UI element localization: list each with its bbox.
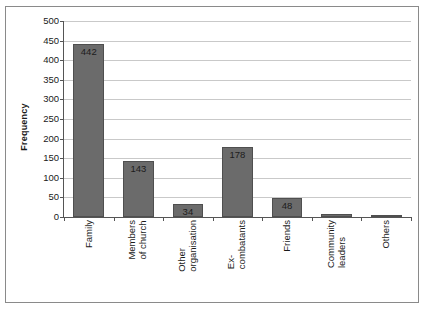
x-axis-category-label: Otherorganisation bbox=[162, 220, 212, 304]
y-axis-tick-label: 150 bbox=[30, 153, 59, 163]
y-axis-tick-label: 500 bbox=[30, 16, 59, 26]
x-axis-category-label-line: of church bbox=[137, 220, 148, 260]
x-axis-category-label: Family bbox=[63, 220, 113, 304]
x-axis-category-label-line: Ex- bbox=[225, 220, 236, 269]
x-axis-category-label-line: organisation bbox=[187, 220, 198, 272]
bar: 48 bbox=[272, 198, 303, 217]
x-axis-category-labels: FamilyMembersof churchOtherorganisationE… bbox=[63, 220, 410, 304]
x-axis-category-label-line: Other bbox=[176, 220, 187, 272]
x-axis-category-label: Friends bbox=[261, 220, 311, 304]
bar-value-label: 143 bbox=[124, 164, 153, 174]
y-axis-tick-label: 0 bbox=[30, 212, 59, 222]
y-axis-tick-label: 450 bbox=[30, 36, 59, 46]
bars-layer: 4421433417848 bbox=[64, 21, 411, 217]
bar bbox=[321, 214, 352, 217]
y-axis-tick-labels: 500450400350300250200150100500 bbox=[30, 21, 59, 217]
bar bbox=[371, 215, 402, 217]
x-axis-category-label: Membersof church bbox=[113, 220, 163, 304]
y-axis-tick-label: 400 bbox=[30, 55, 59, 65]
y-axis-tick-label: 250 bbox=[30, 114, 59, 124]
x-axis-category-label-line: Members bbox=[126, 220, 137, 260]
chart-frame: Frequency 500450400350300250200150100500… bbox=[5, 6, 419, 303]
y-axis-tick-label: 200 bbox=[30, 134, 59, 144]
bar: 143 bbox=[123, 161, 154, 217]
x-axis-category-label: Communityleaders bbox=[311, 220, 361, 304]
bar: 442 bbox=[73, 44, 104, 217]
x-axis-category-label-line: Family bbox=[82, 220, 93, 248]
bar: 34 bbox=[173, 204, 204, 217]
y-axis-tick-label: 100 bbox=[30, 173, 59, 183]
x-axis-category-label-line: Others bbox=[380, 220, 391, 249]
y-axis-tick-label: 300 bbox=[30, 95, 59, 105]
bar-value-label: 178 bbox=[223, 150, 252, 160]
bar-value-label: 48 bbox=[273, 201, 302, 211]
x-axis-category-label: Ex-combatants bbox=[212, 220, 262, 304]
x-axis-category-label-line: Community bbox=[325, 220, 336, 268]
y-axis-tick-label: 50 bbox=[30, 193, 59, 203]
y-axis-tick-label: 350 bbox=[30, 75, 59, 85]
plot-area: 4421433417848 bbox=[63, 21, 411, 218]
x-axis-category-label-line: Friends bbox=[281, 220, 292, 252]
bar: 178 bbox=[222, 147, 253, 217]
x-axis-category-label-line: combatants bbox=[236, 220, 247, 269]
y-axis-title-text: Frequency bbox=[19, 103, 29, 150]
x-axis-category-label: Others bbox=[360, 220, 410, 304]
bar-value-label: 442 bbox=[74, 47, 103, 57]
x-axis-category-label-line: leaders bbox=[336, 220, 347, 268]
x-axis-tick-mark bbox=[411, 217, 412, 221]
bar-value-label: 34 bbox=[174, 207, 203, 217]
